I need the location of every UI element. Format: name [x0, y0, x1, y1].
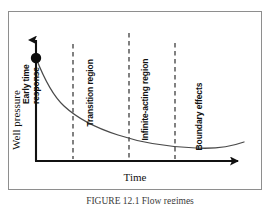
region-label-line: Boundary effects	[195, 83, 205, 151]
x-axis-title: Time	[105, 171, 165, 183]
y-axis-title: Well pressure	[10, 90, 22, 150]
region-label-line: Transition region	[86, 59, 96, 126]
region-label-early-time-response: Early time response	[22, 64, 41, 104]
figure-caption: FIGURE 12.1 Flow regimes	[60, 196, 220, 204]
figure-root: Early time response Transition region In…	[0, 0, 271, 204]
region-label-boundary-effects: Boundary effects	[195, 83, 205, 151]
region-label-line: Infinite-acting region	[141, 59, 151, 141]
region-label-line: response	[32, 64, 42, 104]
region-label-transition-region: Transition region	[86, 59, 96, 126]
region-label-infinite-acting-region: Infinite-acting region	[141, 59, 151, 141]
curve-start-marker	[31, 53, 41, 63]
